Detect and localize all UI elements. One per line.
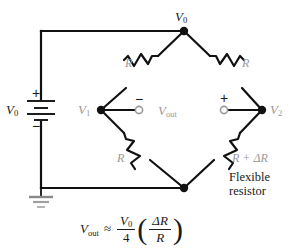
equation-lhs: Vout	[80, 221, 99, 237]
circuit-diagram: V0 + − V0 V1 V2 R R R R + ΔR Flexible re…	[0, 0, 294, 250]
equation-fraction-2: ΔR R	[149, 214, 171, 244]
equation-lhs-text: V	[80, 221, 88, 236]
output-minus-sign: −	[135, 92, 143, 106]
node-label-top-text: V	[175, 9, 183, 24]
ground-symbol	[29, 188, 53, 207]
equation-frac2-denominator: R	[153, 230, 167, 245]
resistor-label-top-left: R	[125, 57, 132, 69]
node-dot-right	[258, 106, 266, 114]
node-dot-left	[97, 106, 105, 114]
equation-relation: ≈	[104, 221, 111, 237]
flexible-resistor-note: Flexible resistor	[229, 170, 270, 199]
equation-frac2-numerator: ΔR	[149, 214, 171, 229]
output-terminal-plus	[220, 106, 227, 113]
equation-paren-close: )	[173, 217, 183, 242]
resistor-label-bottom-left: R	[117, 152, 124, 164]
resistor-label-top-right: R	[242, 57, 249, 69]
equation-fraction-1: V0 4	[117, 214, 135, 244]
source-label-sub: 0	[14, 108, 18, 118]
node-label-right: V2	[270, 103, 282, 116]
equation-frac1-num-sub: 0	[128, 219, 132, 229]
output-terminal-minus	[135, 106, 142, 113]
flexible-resistor-note-line2: resistor	[229, 184, 270, 198]
node-label-left-text: V	[78, 102, 86, 117]
output-label: Vout	[158, 104, 177, 117]
output-label-sub: out	[166, 109, 177, 119]
node-label-left-sub: 1	[86, 108, 90, 118]
node-dot-top	[180, 27, 188, 35]
equation-frac1-numerator: V0	[117, 214, 135, 229]
source-label-text: V	[6, 102, 14, 117]
source-plus-sign: +	[32, 86, 40, 100]
equation-frac1-num-text: V	[120, 213, 128, 228]
equation-lhs-sub: out	[88, 228, 99, 238]
node-label-top-sub: 0	[183, 15, 187, 25]
equation-frac1-denominator: 4	[120, 230, 133, 245]
node-label-left: V1	[78, 103, 90, 116]
resistor-label-bottom-right: R + ΔR	[232, 152, 268, 164]
circuit-schematic-svg	[0, 0, 294, 250]
source-label: V0	[6, 103, 18, 116]
output-plus-sign: +	[220, 91, 228, 105]
equation: Vout ≈ V0 4 ( ΔR R )	[80, 214, 184, 244]
source-minus-sign: −	[32, 119, 40, 133]
node-label-right-text: V	[270, 102, 278, 117]
node-label-right-sub: 2	[278, 108, 282, 118]
equation-paren-open: (	[137, 217, 147, 242]
resistor-bottom-left	[101, 110, 184, 188]
node-dot-bottom	[180, 184, 188, 192]
node-label-top: V0	[175, 10, 187, 23]
flexible-resistor-note-line1: Flexible	[229, 170, 270, 184]
output-label-text: V	[158, 103, 166, 118]
